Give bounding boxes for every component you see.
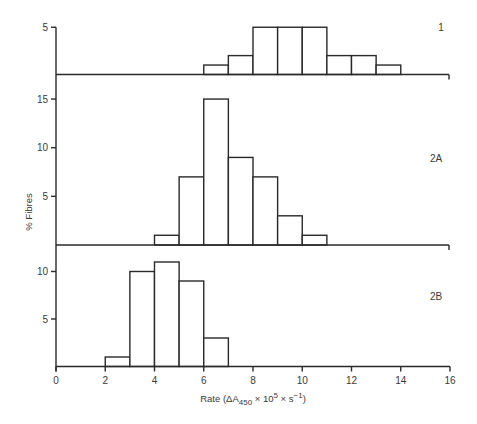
- bar: [204, 338, 229, 367]
- x-axis-title-sub: 450: [239, 398, 253, 407]
- bar: [179, 177, 204, 245]
- x-tick-label: 6: [201, 375, 207, 386]
- bar: [302, 27, 327, 74]
- y-tick-label: 5: [42, 22, 48, 33]
- x-axis-title-end: ): [303, 393, 306, 404]
- y-tick-label: 10: [37, 142, 49, 153]
- bar: [278, 216, 303, 245]
- y-axis-title: % Fibres: [23, 193, 34, 231]
- panel-2b: 5102B: [37, 262, 443, 367]
- x-tick-label: 0: [53, 375, 59, 386]
- x-tick-label: 12: [346, 375, 358, 386]
- y-tick-label: 5: [42, 191, 48, 202]
- bar: [352, 56, 377, 75]
- panel-2a: 510152A: [37, 94, 449, 250]
- bar: [228, 157, 253, 245]
- y-tick-label: 10: [37, 266, 49, 277]
- bar: [155, 262, 180, 367]
- x-tick-label: 4: [152, 375, 158, 386]
- bar: [204, 99, 229, 245]
- bar: [130, 272, 155, 367]
- x-axis-title-main: Rate (ΔA: [200, 393, 239, 404]
- bar: [253, 27, 278, 74]
- panel-label: 2B: [430, 291, 443, 302]
- bar: [228, 56, 253, 75]
- bar: [105, 357, 130, 367]
- panel-1: 51: [42, 22, 449, 80]
- bar: [302, 235, 327, 245]
- x-tick-label: 16: [444, 375, 456, 386]
- bar: [327, 56, 352, 75]
- histogram-chart: 51510152A5102B 0246810121416 % Fibres Ra…: [0, 0, 477, 424]
- x-axis: 0246810121416: [53, 367, 456, 386]
- x-tick-label: 2: [102, 375, 108, 386]
- bar: [253, 177, 278, 245]
- x-axis-title-tail: × s: [278, 393, 294, 404]
- bar: [204, 65, 229, 74]
- bar: [278, 27, 303, 74]
- bar: [155, 235, 180, 245]
- bar: [179, 281, 204, 367]
- x-axis-title-middle: × 10: [252, 393, 273, 404]
- panel-label: 2A: [430, 153, 443, 164]
- x-axis-title: Rate (ΔA450 × 105 × s−1): [200, 391, 306, 407]
- panels-group: 51510152A5102B: [37, 22, 449, 372]
- x-tick-label: 10: [297, 375, 309, 386]
- x-tick-label: 8: [250, 375, 256, 386]
- y-tick-label: 15: [37, 94, 49, 105]
- y-tick-label: 5: [42, 314, 48, 325]
- panel-label: 1: [438, 22, 444, 33]
- x-tick-label: 14: [395, 375, 407, 386]
- bar: [376, 65, 401, 74]
